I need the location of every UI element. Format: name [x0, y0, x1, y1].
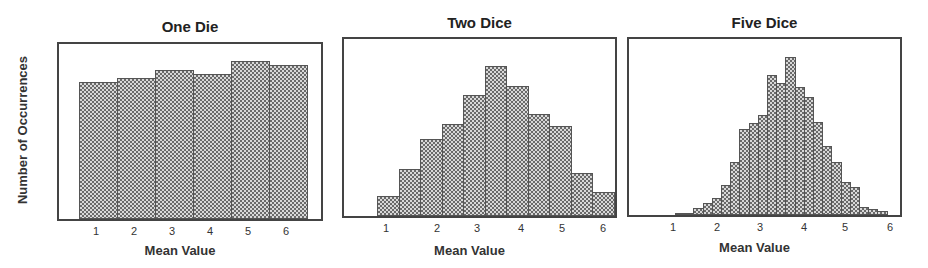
plot-area [627, 37, 902, 217]
x-tick-label: 1 [383, 222, 389, 234]
x-tick-label: 2 [131, 225, 137, 237]
histogram-bar [528, 114, 551, 216]
histogram-bar [506, 86, 529, 216]
histogram-bar [193, 74, 232, 219]
x-axis-label: Mean Value [719, 240, 790, 255]
chart-title: Five Dice [627, 14, 902, 31]
x-tick-label: 3 [474, 222, 480, 234]
histogram-bar [592, 192, 615, 216]
x-tick-label: 4 [207, 225, 213, 237]
histogram-bar [571, 173, 594, 216]
histogram-bar [117, 78, 156, 219]
x-axis-label: Mean Value [145, 243, 216, 258]
histogram-bar [231, 61, 270, 219]
x-tick-label: 3 [169, 225, 175, 237]
x-tick-label: 5 [842, 221, 848, 233]
x-tick-label: 4 [518, 222, 524, 234]
histogram-bar [269, 65, 308, 219]
chart-title: One Die [57, 18, 323, 35]
histogram-bar [155, 70, 194, 219]
x-tick-label: 5 [245, 225, 251, 237]
x-tick-label: 5 [559, 222, 565, 234]
y-axis-label: Number of Occurrences [15, 56, 30, 204]
x-tick-label: 6 [887, 221, 893, 233]
histogram-bar [399, 169, 422, 216]
x-tick-label: 1 [93, 225, 99, 237]
x-tick-label: 6 [600, 222, 606, 234]
plot-area [57, 42, 323, 221]
histogram-bar [463, 95, 486, 216]
chart-title: Two Dice [342, 14, 617, 31]
x-tick-label: 6 [283, 225, 289, 237]
histogram-bar [877, 211, 887, 215]
x-axis-label: Mean Value [434, 243, 505, 258]
histogram-bar [549, 126, 572, 216]
plot-area [342, 37, 617, 218]
histogram-bar [485, 66, 508, 216]
histogram-bar [79, 82, 118, 219]
x-tick-label: 2 [714, 221, 720, 233]
x-tick-label: 3 [757, 221, 763, 233]
histogram-bar [420, 139, 443, 216]
x-tick-label: 1 [670, 221, 676, 233]
x-tick-label: 4 [801, 221, 807, 233]
x-tick-label: 2 [434, 222, 440, 234]
histogram-bar [377, 196, 400, 216]
histogram-bar [442, 124, 465, 216]
